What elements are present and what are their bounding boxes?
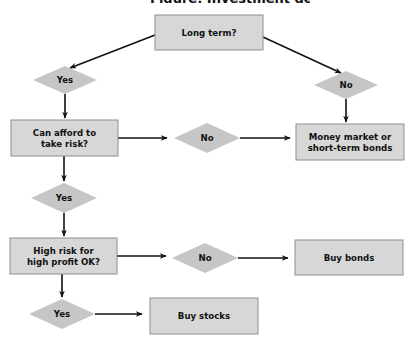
- node-label: Money market or: [309, 132, 392, 142]
- process-box-buy-stocks: Buy stocks: [150, 298, 258, 334]
- node-label: Yes: [53, 309, 70, 319]
- node-label: Yes: [55, 193, 72, 203]
- decision-diamond-no3: No: [172, 243, 238, 273]
- arrow-long-term-to-no1: [263, 37, 341, 73]
- node-label: No: [200, 133, 213, 143]
- decision-diamond-no1: No: [314, 71, 378, 99]
- decision-diamond-no2: No: [174, 123, 240, 153]
- process-box-long-term: Long term?: [155, 15, 263, 50]
- node-label: short-term bonds: [308, 143, 393, 153]
- nodes: Long term?YesNoCan afford totake risk?No…: [10, 15, 404, 334]
- node-label: Yes: [56, 75, 73, 85]
- process-box-money-market: Money market orshort-term bonds: [296, 124, 404, 160]
- decision-diamond-yes2: Yes: [31, 183, 97, 213]
- arrow-long-term-to-yes1: [70, 35, 155, 68]
- node-label: high profit OK?: [27, 257, 100, 267]
- node-label: take risk?: [41, 139, 88, 149]
- node-label: No: [339, 80, 352, 90]
- process-box-buy-bonds: Buy bonds: [295, 240, 403, 275]
- decision-diamond-yes1: Yes: [33, 66, 97, 94]
- node-label: No: [198, 253, 211, 263]
- node-label: High risk for: [33, 246, 94, 256]
- node-label: Buy bonds: [324, 253, 375, 263]
- process-box-high-risk: High risk forhigh profit OK?: [10, 238, 117, 274]
- node-label: Buy stocks: [178, 311, 230, 321]
- decision-diamond-yes3: Yes: [29, 299, 95, 329]
- node-label: Long term?: [182, 28, 237, 38]
- node-label: Can afford to: [33, 128, 96, 138]
- flowchart: Long term?YesNoCan afford totake risk?No…: [0, 0, 412, 345]
- process-box-afford-risk: Can afford totake risk?: [11, 120, 118, 156]
